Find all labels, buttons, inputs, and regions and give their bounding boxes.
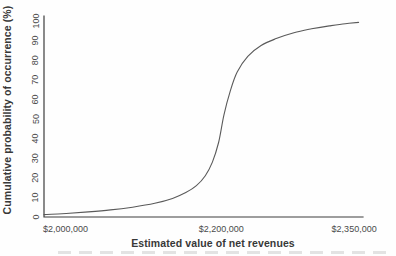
chart-figure: 0102030405060708090100$2,000,000$2,200,0… (0, 0, 396, 256)
y-tick-label: 10 (31, 192, 41, 202)
y-tick-label: 70 (31, 75, 41, 85)
y-tick-label: 100 (31, 13, 41, 28)
x-tick-label: $2,200,000 (199, 224, 244, 234)
cumulative-probability-chart: 0102030405060708090100$2,000,000$2,200,0… (0, 0, 396, 256)
y-tick-label: 50 (31, 114, 41, 124)
plot-area: 0102030405060708090100$2,000,000$2,200,0… (31, 13, 377, 233)
y-tick-label: 20 (31, 173, 41, 183)
x-tick-label: $2,350,000 (332, 224, 377, 234)
scan-artifact-cropped-text-line (58, 251, 390, 254)
y-tick-label: 90 (31, 36, 41, 46)
y-axis-title: Cumulative probability of occurrence (%) (1, 6, 13, 215)
x-tick-label: $2,000,000 (43, 224, 88, 234)
x-axis-title: Estimated value of net revenues (131, 237, 295, 249)
y-tick-label: 80 (31, 55, 41, 65)
y-tick-label: 30 (31, 153, 41, 163)
y-tick-label: 60 (31, 94, 41, 104)
cumulative-probability-curve (44, 22, 359, 214)
y-tick-label: 40 (31, 134, 41, 144)
y-tick-label: 0 (31, 214, 41, 219)
axis-lines (44, 16, 363, 217)
